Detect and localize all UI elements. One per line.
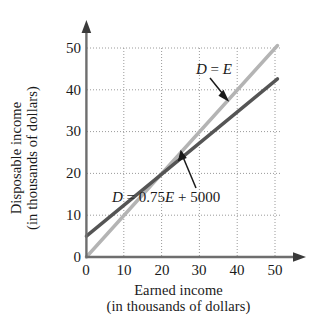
y-axis (82, 20, 92, 258)
y-tick-label-50: 50 (51, 41, 81, 56)
y-tick-label-20: 20 (51, 166, 81, 181)
annotation-identity-rhs: E (223, 61, 232, 77)
annotation-identity-eq: = (211, 61, 219, 77)
x-tick-label-50: 50 (260, 263, 290, 278)
annotation-disposable-equation: D = 0.75E + 5000 (112, 190, 220, 205)
x-tick-label-10: 10 (109, 263, 139, 278)
x-axis-title-line1: Earned income (66, 283, 291, 299)
y-tick-label-40: 40 (51, 83, 81, 98)
leader-arrow-disposable (179, 152, 196, 189)
annotation-identity-equation: D = E (196, 62, 232, 77)
x-axis-title-line2: (in thousands of dollars) (66, 299, 291, 315)
annotation-disposable-coef: 0.75 (139, 189, 165, 205)
x-tick-label-30: 30 (184, 263, 214, 278)
x-tick-label-40: 40 (222, 263, 252, 278)
grid-vertical (124, 48, 275, 256)
annotation-disposable-eq: = (127, 189, 135, 205)
series-line-identity (86, 46, 277, 258)
annotation-disposable-constant: 5000 (190, 189, 220, 205)
annotation-disposable-lhs: D (112, 189, 123, 205)
x-axis (85, 252, 306, 262)
x-tick-label-0: 0 (71, 263, 101, 278)
chart-figure: 0 10 20 30 40 50 0 10 20 30 40 50 D = E … (0, 0, 315, 326)
x-axis-title: Earned income (in thousands of dollars) (66, 283, 291, 314)
annotation-identity-lhs: D (196, 61, 207, 77)
y-tick-label-10: 10 (51, 208, 81, 223)
leader-arrow-identity (210, 78, 228, 100)
y-tick-label-30: 30 (51, 124, 81, 139)
annotation-disposable-var: E (165, 189, 174, 205)
x-tick-label-20: 20 (147, 263, 177, 278)
